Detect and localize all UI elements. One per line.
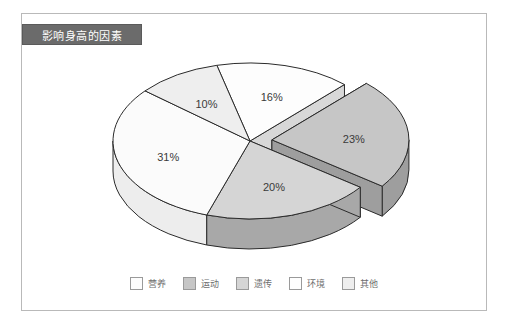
pie-slice-label: 16%	[261, 91, 283, 103]
legend-item[interactable]: 营养	[130, 277, 166, 290]
legend-item[interactable]: 其他	[342, 277, 378, 290]
pie-slice-label: 20%	[263, 181, 285, 193]
pie-slice-label: 23%	[343, 133, 365, 145]
pie-chart-canvas: 16%23%20%31%10%	[21, 13, 487, 311]
legend-item[interactable]: 运动	[183, 277, 219, 290]
pie-chart-figure: 影响身高的因素 16%23%20%31%10% 营养运动遗传环境其他	[0, 0, 506, 332]
legend-item-label: 营养	[148, 277, 166, 290]
pie-slice-label: 10%	[195, 98, 217, 110]
pie-slice-label: 31%	[157, 151, 179, 163]
legend-swatch-icon	[130, 277, 143, 290]
chart-legend: 营养运动遗传环境其他	[21, 270, 487, 296]
legend-swatch-icon	[342, 277, 355, 290]
legend-item[interactable]: 遗传	[236, 277, 272, 290]
legend-swatch-icon	[183, 277, 196, 290]
legend-item-label: 遗传	[254, 277, 272, 290]
legend-swatch-icon	[236, 277, 249, 290]
legend-item-label: 其他	[360, 277, 378, 290]
legend-item-label: 运动	[201, 277, 219, 290]
legend-item-label: 环境	[307, 277, 325, 290]
legend-swatch-icon	[289, 277, 302, 290]
legend-item[interactable]: 环境	[289, 277, 325, 290]
